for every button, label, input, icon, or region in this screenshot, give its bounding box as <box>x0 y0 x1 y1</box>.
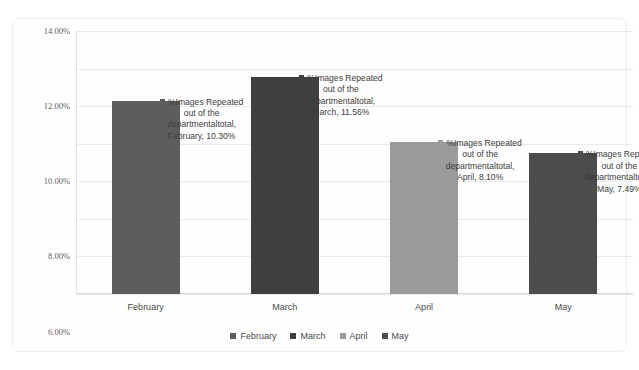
legend-label: February <box>240 331 276 341</box>
clipped-caption: Figure: %Images Repeated out of the depa… <box>14 0 624 3</box>
data-label-line-3: departmentaltotal, <box>446 161 515 171</box>
x-axis-category-label: April <box>415 302 433 312</box>
data-label-line-4: April, 8.10% <box>457 172 503 182</box>
y-axis-tick-label: 14.00% <box>44 26 70 36</box>
bar-slot: February <box>76 31 215 294</box>
plot-area: 0.00%2.00%4.00%6.00%8.00%10.00%12.00%14.… <box>76 31 633 294</box>
x-axis-category-label: May <box>555 302 572 312</box>
legend-item-february[interactable]: February <box>230 331 276 341</box>
data-label-line-3: departmentaltotal, <box>167 119 236 129</box>
data-label-march[interactable]: %Images Repeatedout of thedepartmentalto… <box>279 73 403 119</box>
legend-label: March <box>300 331 325 341</box>
x-axis-category-label: March <box>272 302 297 312</box>
chart-legend: FebruaryMarchAprilMay <box>13 331 626 341</box>
y-axis-tick-label: 10.00% <box>44 176 70 186</box>
bar-slot: March <box>215 31 354 294</box>
data-label-line-3: departmentaltotal, <box>585 172 639 182</box>
y-axis-tick-label: 12.00% <box>44 101 70 111</box>
data-label-line-2: out of the <box>601 161 637 171</box>
data-label-line-4: March, 11.56% <box>312 107 369 117</box>
legend-swatch-icon <box>340 333 346 339</box>
data-label-line-1: %Images Repeated <box>168 97 243 107</box>
data-label-may[interactable]: %Images Repeatedout of thedepartmentalto… <box>557 149 639 195</box>
data-label-line-3: departmentaltotal, <box>306 96 375 106</box>
data-label-line-1: %Images Repeated <box>446 138 521 148</box>
legend-item-may[interactable]: May <box>382 331 409 341</box>
legend-swatch-icon <box>382 333 388 339</box>
chart-container: 0.00%2.00%4.00%6.00%8.00%10.00%12.00%14.… <box>12 18 627 352</box>
x-axis-category-label: February <box>128 302 164 312</box>
data-label-swatch-icon <box>299 75 304 80</box>
legend-swatch-icon <box>290 333 296 339</box>
data-label-line-1: %Images Repeated <box>586 149 639 159</box>
data-label-line-2: out of the <box>323 84 359 94</box>
legend-item-march[interactable]: March <box>290 331 325 341</box>
data-label-swatch-icon <box>160 99 165 104</box>
data-label-april[interactable]: %Images Repeatedout of thedepartmentalto… <box>418 138 542 184</box>
gridline: 0.00% <box>76 294 633 295</box>
y-axis-tick-label: 8.00% <box>48 251 70 261</box>
legend-item-april[interactable]: April <box>340 331 368 341</box>
legend-swatch-icon <box>230 333 236 339</box>
legend-label: May <box>392 331 409 341</box>
data-label-february[interactable]: %Images Repeatedout of thedepartmentalto… <box>140 97 264 143</box>
data-label-line-4: February, 10.30% <box>168 131 236 141</box>
data-label-line-2: out of the <box>462 149 498 159</box>
legend-label: April <box>350 331 368 341</box>
data-label-line-2: out of the <box>184 108 220 118</box>
data-label-swatch-icon <box>438 140 443 145</box>
data-label-line-4: May, 7.49% <box>597 184 639 194</box>
data-label-swatch-icon <box>578 151 583 156</box>
data-label-line-1: %Images Repeated <box>307 73 382 83</box>
